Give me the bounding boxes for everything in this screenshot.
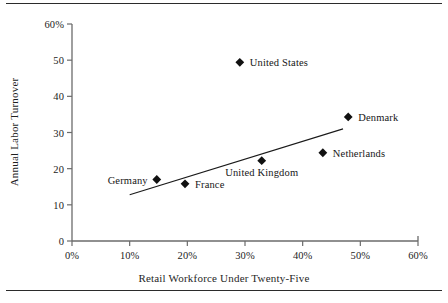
data-point-marker[interactable] [235, 58, 244, 67]
data-point-marker[interactable] [318, 148, 327, 157]
trendline [130, 129, 343, 195]
x-tick-label: 60% [408, 250, 428, 261]
data-point-marker[interactable] [344, 113, 353, 122]
x-tick-label: 30% [235, 250, 255, 261]
data-point-marker[interactable] [181, 179, 190, 188]
x-tick-label: 20% [178, 250, 198, 261]
x-tick-label: 0% [65, 250, 79, 261]
y-tick-label: 20 [20, 163, 64, 174]
y-tick-label: 60% [20, 19, 64, 30]
y-tick-label: 40 [20, 91, 64, 102]
x-tick-label: 50% [351, 250, 371, 261]
x-axis-title: Retail Workforce Under Twenty-Five [138, 272, 309, 284]
data-point-label: Netherlands [333, 147, 385, 158]
data-point-label: France [195, 178, 224, 189]
y-tick-label: 50 [20, 55, 64, 66]
y-tick-label: 30 [20, 127, 64, 138]
y-tick-label: 10 [20, 199, 64, 210]
x-tick-label: 40% [293, 250, 313, 261]
data-point-marker[interactable] [152, 175, 161, 184]
chart-figure: 0102030405060%0%10%20%30%40%50%60% Germa… [0, 0, 448, 303]
data-point-marker[interactable] [257, 156, 266, 165]
data-point-label: Germany [108, 174, 148, 185]
data-point-label: United Kingdom [225, 167, 298, 178]
data-point-label: United States [250, 57, 308, 68]
y-axis-title: Annual Labor Turnover [8, 78, 20, 187]
data-point-label: Denmark [358, 111, 398, 122]
x-tick-label: 10% [120, 250, 140, 261]
y-tick-label: 0 [20, 236, 64, 247]
